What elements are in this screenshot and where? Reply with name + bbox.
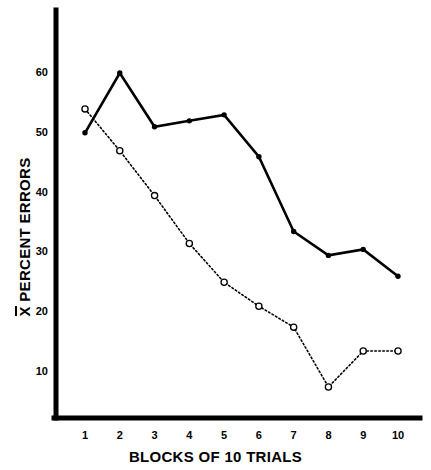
- data-point-dotted-open-circles-7: [291, 324, 297, 330]
- data-point-solid-filled-circles-8: [326, 253, 331, 258]
- x-tick-label-9: 9: [348, 430, 378, 441]
- y-tick-label-10: 10: [20, 366, 48, 377]
- y-tick-label-60: 60: [20, 67, 48, 78]
- x-tick-label-1: 1: [70, 430, 100, 441]
- x-tick-label-2: 2: [105, 430, 135, 441]
- data-point-dotted-open-circles-9: [360, 348, 366, 354]
- data-point-solid-filled-circles-6: [256, 154, 261, 159]
- series-line-dotted-open-circles: [85, 109, 398, 387]
- x-tick-label-8: 8: [313, 430, 343, 441]
- data-point-dotted-open-circles-6: [256, 303, 262, 309]
- data-point-solid-filled-circles-5: [221, 112, 226, 117]
- data-point-solid-filled-circles-10: [395, 274, 400, 279]
- data-point-dotted-open-circles-4: [186, 240, 192, 246]
- x-bar-symbol: X: [15, 306, 33, 316]
- x-tick-label-6: 6: [244, 430, 274, 441]
- data-point-dotted-open-circles-8: [325, 384, 331, 390]
- data-point-dotted-open-circles-5: [221, 279, 227, 285]
- chart-figure: 605040302010 12345678910 X PERCENT ERROR…: [0, 0, 431, 470]
- data-point-solid-filled-circles-3: [152, 124, 157, 129]
- chart-series-group: [82, 70, 401, 390]
- chart-axes: [54, 10, 420, 418]
- x-tick-label-7: 7: [279, 430, 309, 441]
- data-point-solid-filled-circles-1: [82, 130, 87, 135]
- data-point-dotted-open-circles-3: [151, 192, 157, 198]
- y-axis-title-text: PERCENT ERRORS: [16, 158, 33, 307]
- data-point-solid-filled-circles-7: [291, 229, 296, 234]
- data-point-solid-filled-circles-4: [187, 118, 192, 123]
- x-tick-label-4: 4: [174, 430, 204, 441]
- x-axis-title: BLOCKS OF 10 TRIALS: [0, 448, 431, 465]
- y-axis-title: X PERCENT ERRORS: [15, 137, 33, 337]
- x-tick-label-5: 5: [209, 430, 239, 441]
- chart-plot-area: [0, 0, 431, 470]
- series-line-solid-filled-circles: [85, 73, 398, 276]
- data-point-solid-filled-circles-2: [117, 70, 122, 75]
- x-tick-label-10: 10: [383, 430, 413, 441]
- x-tick-label-3: 3: [140, 430, 170, 441]
- data-point-dotted-open-circles-2: [117, 148, 123, 154]
- data-point-dotted-open-circles-1: [82, 106, 88, 112]
- data-point-solid-filled-circles-9: [361, 247, 366, 252]
- data-point-dotted-open-circles-10: [395, 348, 401, 354]
